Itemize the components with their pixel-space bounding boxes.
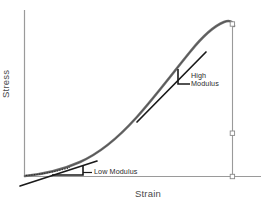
low-modulus-annotation: Low Modulus xyxy=(94,168,137,176)
stress-strain-figure: Stress Strain High Modulus Low Modulus xyxy=(0,0,267,205)
drop-marker-mid xyxy=(230,131,234,135)
drop-marker-bottom xyxy=(230,174,234,178)
low-modulus-tangent-line xyxy=(20,161,97,186)
stress-strain-curve-core xyxy=(25,21,234,176)
y-axis-label: Stress xyxy=(0,74,11,98)
drop-marker-top xyxy=(230,22,234,26)
high-modulus-annotation: High Modulus xyxy=(191,72,219,89)
x-axis-label: Strain xyxy=(98,188,198,199)
stress-strain-curve xyxy=(25,21,234,176)
